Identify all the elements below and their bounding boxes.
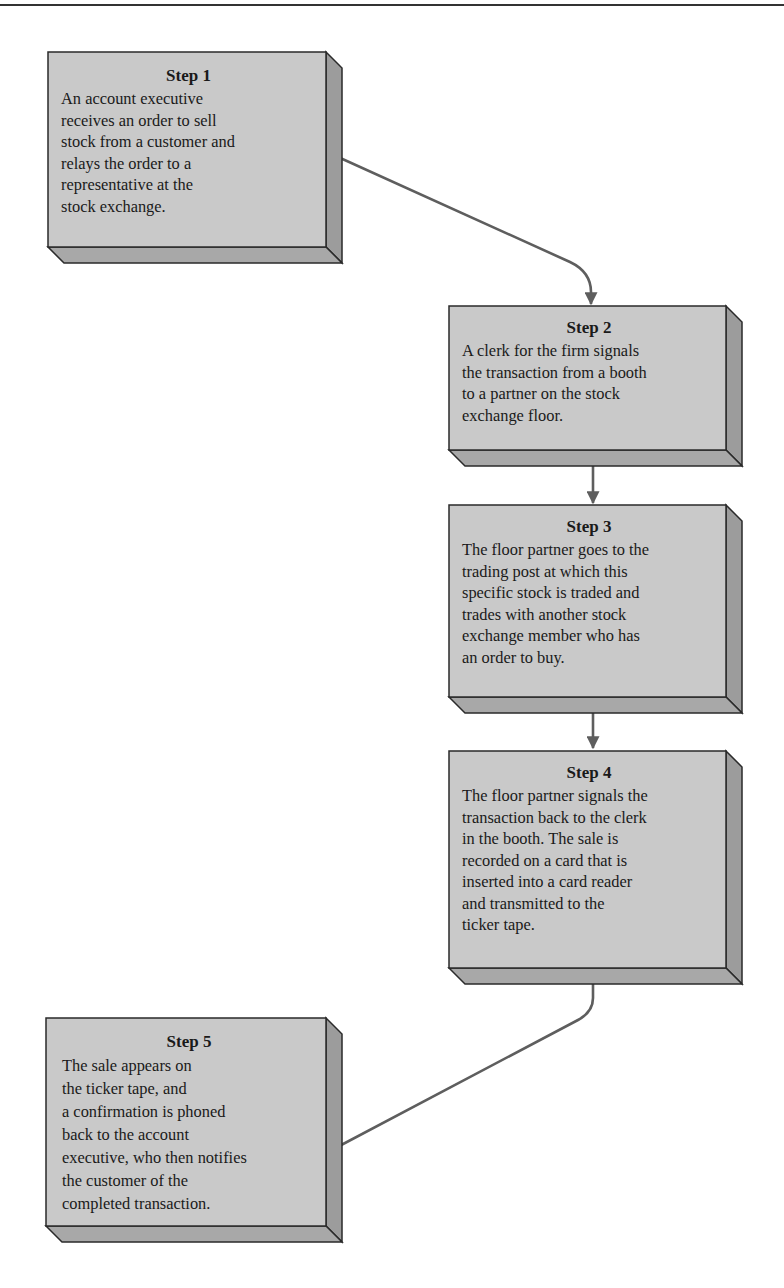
step-description: A clerk for the firm signals the transac…: [462, 340, 716, 426]
step-title: Step 5: [62, 1032, 316, 1052]
step-4-box: Step 4 The floor partner signals the tra…: [449, 751, 742, 984]
step-title: Step 3: [462, 517, 716, 537]
step-5-box: Step 5 The sale appears on the ticker ta…: [46, 1018, 342, 1242]
step-description: The sale appears on the ticker tape, and…: [62, 1054, 316, 1215]
step-description: An account executive receives an order t…: [61, 88, 316, 217]
step-title: Step 2: [462, 318, 716, 338]
step-3-box: Step 3 The floor partner goes to the tra…: [449, 505, 742, 713]
arrow-step4-to-step5: [328, 968, 593, 1152]
step-title: Step 4: [462, 763, 716, 783]
step-title: Step 1: [61, 66, 316, 86]
step-description: The floor partner signals the transactio…: [462, 785, 716, 936]
arrow-step1-to-step2: [327, 152, 591, 304]
step-description: The floor partner goes to the trading po…: [462, 539, 716, 668]
step-2-box: Step 2 A clerk for the firm signals the …: [449, 306, 742, 466]
step-1-box: Step 1 An account executive receives an …: [48, 52, 342, 263]
